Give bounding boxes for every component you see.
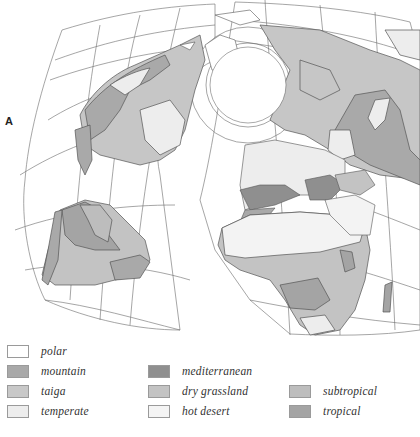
swatch-temperate	[7, 405, 29, 418]
swatch-mountain	[7, 365, 29, 378]
swatch-subtropical	[289, 385, 311, 398]
legend-label: subtropical	[323, 385, 377, 397]
legend-label: taiga	[41, 385, 66, 397]
legend-label: temperate	[41, 405, 89, 417]
swatch-dry-grassland	[148, 385, 170, 398]
panel-label: A	[5, 115, 13, 127]
polar-cap	[210, 47, 286, 123]
legend-item-dry-grassland: dry grassland	[148, 383, 248, 399]
legend: polar mountain taiga temperate mediterra…	[0, 343, 420, 433]
legend-label: hot desert	[182, 405, 230, 417]
swatch-taiga	[7, 385, 29, 398]
legend-label: tropical	[323, 405, 361, 417]
swatch-mediterranean	[148, 365, 170, 378]
legend-item-hot-desert: hot desert	[148, 403, 230, 419]
legend-item-tropical: tropical	[289, 403, 361, 419]
legend-item-subtropical: subtropical	[289, 383, 377, 399]
swatch-tropical	[289, 405, 311, 418]
biome-map	[0, 0, 420, 340]
swatch-hot-desert	[148, 405, 170, 418]
legend-item-mountain: mountain	[7, 363, 86, 379]
legend-item-taiga: taiga	[7, 383, 66, 399]
legend-item-mediterranean: mediterranean	[148, 363, 252, 379]
swatch-polar	[7, 345, 29, 358]
legend-item-temperate: temperate	[7, 403, 89, 419]
legend-label: mediterranean	[182, 365, 252, 377]
legend-label: polar	[41, 345, 67, 357]
legend-label: dry grassland	[182, 385, 248, 397]
south-america	[42, 200, 150, 285]
legend-label: mountain	[41, 365, 86, 377]
legend-item-polar: polar	[7, 343, 67, 359]
